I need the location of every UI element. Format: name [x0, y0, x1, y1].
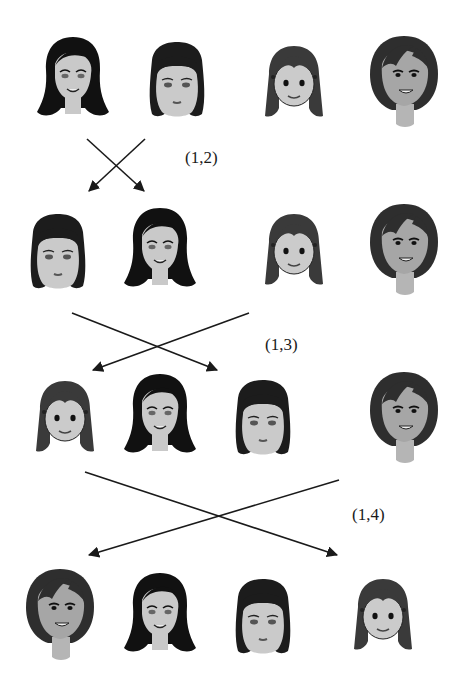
swap-arrows	[0, 0, 467, 689]
swap-1-4-arrow-right	[85, 472, 337, 555]
swap-label-1-3: (1,3)	[265, 335, 298, 355]
swap-label-1-2: (1,2)	[185, 148, 218, 168]
swap-1-3-arrow-right	[72, 313, 217, 370]
permutation-diagram: (1,2) (1,3) (1,4)	[0, 0, 467, 689]
swap-1-3-arrow-left	[93, 313, 249, 370]
swap-label-1-4: (1,4)	[352, 505, 385, 525]
